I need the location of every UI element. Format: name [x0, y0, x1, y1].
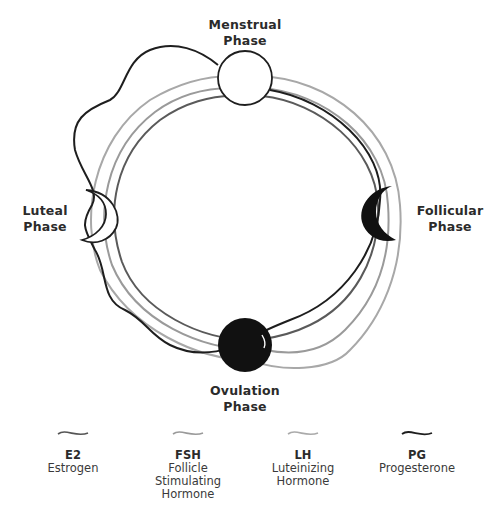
luteal-label-line1: Luteal [10, 203, 80, 219]
legend-name: Hormone [133, 488, 243, 501]
legend-name: Hormone [248, 475, 358, 488]
fsh-wave-icon [171, 428, 205, 438]
legend-name: Progesterone [362, 462, 472, 475]
ovulation-moon-icon [218, 318, 272, 372]
follicular-label-line2: Phase [405, 219, 495, 235]
luteal-label-line2: Phase [10, 219, 80, 235]
menstrual-label-line2: Phase [195, 33, 295, 49]
ovulation-label-line1: Ovulation [195, 383, 295, 399]
ovulation-phase-label: Ovulation Phase [195, 383, 295, 415]
legend-abbr: FSH [133, 448, 243, 462]
legend-abbr: E2 [18, 448, 128, 462]
menstrual-label-line1: Menstrual [195, 17, 295, 33]
legend-abbr: LH [248, 448, 358, 462]
menstrual-moon-icon [218, 51, 272, 105]
luteal-phase-label: Luteal Phase [10, 203, 80, 235]
menstrual-phase-label: Menstrual Phase [195, 17, 295, 49]
legend-name: Estrogen [18, 462, 128, 475]
lh-wave-icon [286, 428, 320, 438]
ovulation-label-line2: Phase [195, 399, 295, 415]
legend-item-e2: E2 Estrogen [18, 428, 128, 475]
follicular-phase-label: Follicular Phase [405, 203, 495, 235]
legend-abbr: PG [362, 448, 472, 462]
legend-item-fsh: FSH Follicle Stimulating Hormone [133, 428, 243, 501]
e2-curve [114, 96, 378, 340]
pg-wave-icon [400, 428, 434, 438]
legend-item-lh: LH Luteinizing Hormone [248, 428, 358, 488]
legend-item-pg: PG Progesterone [362, 428, 472, 475]
follicular-label-line1: Follicular [405, 203, 495, 219]
e2-wave-icon [56, 428, 90, 438]
